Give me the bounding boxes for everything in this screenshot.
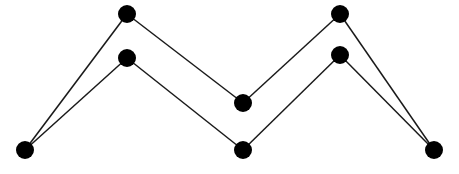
edge-left-top-left-lower: [25, 58, 127, 150]
edge-top-left-lower-middle-lower: [127, 58, 243, 150]
nodes-group: [16, 5, 443, 159]
edge-middle-lower-top-right-lower: [243, 55, 340, 150]
node-top-right-upper: [331, 5, 349, 23]
node-top-left-upper: [118, 5, 136, 23]
edge-top-right-upper-right: [340, 14, 434, 150]
node-middle-upper: [234, 94, 252, 112]
edge-middle-upper-top-right-upper: [243, 14, 340, 103]
node-top-right-lower: [331, 46, 349, 64]
edge-top-right-lower-right: [340, 55, 434, 150]
edge-top-left-upper-middle-upper: [127, 14, 243, 103]
node-right: [425, 141, 443, 159]
edge-left-top-left-upper: [25, 14, 127, 150]
node-left: [16, 141, 34, 159]
edges-group: [25, 14, 434, 150]
node-top-left-lower: [118, 49, 136, 67]
node-middle-lower: [234, 141, 252, 159]
graph-diagram: [0, 0, 459, 174]
